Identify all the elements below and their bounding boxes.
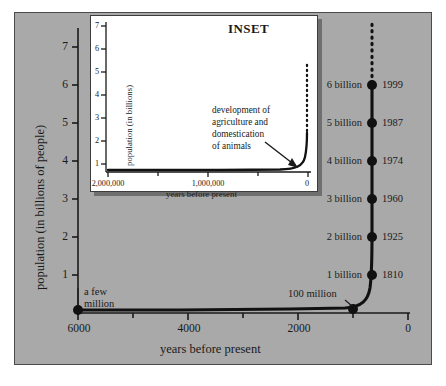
main-y-tick-4: 4 — [48, 154, 68, 167]
milestone-population-6-billion: 6 billion — [288, 79, 362, 91]
main-x-ticks — [78, 313, 408, 320]
main-y-tick-1: 1 — [48, 268, 68, 281]
inset-x-tick-1000000: 1,000,000 — [183, 179, 233, 188]
inset-x-axis-title: years before present — [166, 190, 237, 200]
main-x-axis-title: years before present — [160, 342, 261, 356]
milestone-population-4-billion: 4 billion — [288, 155, 362, 167]
milestone-year-1987: 1987 — [382, 117, 403, 129]
dot-3-billion — [367, 194, 377, 204]
inset-y-tick-6: 6 — [84, 44, 99, 53]
inset-y-tick-5: 5 — [84, 67, 99, 76]
main-y-tick-3: 3 — [48, 192, 68, 205]
annotation-a-few-million-line2: million — [84, 298, 114, 310]
milestone-year-1810: 1810 — [382, 269, 403, 281]
dot-100-million — [348, 304, 358, 314]
dot-1-billion — [367, 270, 377, 280]
inset-y-tick-4: 4 — [84, 90, 99, 99]
inset-y-tick-7: 7 — [84, 21, 99, 30]
main-x-tick-2000: 2000 — [280, 322, 318, 335]
main-y-tick-2: 2 — [48, 230, 68, 243]
main-y-tick-6: 6 — [48, 78, 68, 91]
inset-y-tick-3: 3 — [84, 113, 99, 122]
inset-annotation-line-2: agriculture and — [212, 117, 268, 127]
inset-y-tick-2: 2 — [84, 136, 99, 145]
milestone-population-5-billion: 5 billion — [288, 117, 362, 129]
main-y-tick-5: 5 — [48, 116, 68, 129]
milestone-population-3-billion: 3 billion — [288, 193, 362, 205]
main-y-axis-title: population (in billions of people) — [33, 125, 47, 290]
inset-annotation-line-4: of animals — [212, 141, 251, 151]
milestone-population-1-billion: 1 billion — [288, 269, 362, 281]
main-y-tick-7: 7 — [48, 40, 68, 53]
inset-y-tick-1: 1 — [84, 159, 99, 168]
milestone-population-2-billion: 2 billion — [288, 231, 362, 243]
population-growth-figure: population (in billions of people) 7 6 5… — [0, 0, 446, 386]
inset-title: INSET — [228, 22, 269, 37]
annotation-100-million: 100 million — [288, 288, 337, 300]
annotation-a-few-million-line1: a few — [84, 286, 107, 298]
inset-annotation-line-3: domestication — [212, 129, 264, 139]
inset-annotation-line-1: development of — [212, 105, 270, 115]
dot-a-few-million — [73, 305, 83, 315]
milestone-year-1925: 1925 — [382, 231, 403, 243]
hundred-million-leader — [345, 300, 352, 306]
main-x-tick-0: 0 — [396, 322, 420, 335]
dot-5-billion — [367, 118, 377, 128]
main-x-tick-6000: 6000 — [60, 322, 98, 335]
inset-x-tick-2000000: 2,000,000 — [83, 179, 133, 188]
milestone-year-1974: 1974 — [382, 155, 403, 167]
dot-4-billion — [367, 156, 377, 166]
inset-y-ticks — [101, 26, 106, 164]
inset-y-axis-title: population (in billions) — [125, 85, 135, 166]
main-x-tick-4000: 4000 — [170, 322, 208, 335]
inset-x-tick-0: 0 — [300, 179, 314, 188]
main-y-ticks — [72, 47, 78, 275]
dot-6-billion — [367, 80, 377, 90]
milestone-year-1999: 1999 — [382, 79, 403, 91]
milestone-year-1960: 1960 — [382, 193, 403, 205]
dot-2-billion — [367, 232, 377, 242]
